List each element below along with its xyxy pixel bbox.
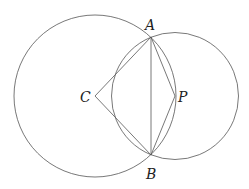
geometry-diagram: A B C P (0, 0, 249, 189)
label-b: B (145, 166, 156, 182)
segment-ap (151, 37, 175, 96)
label-a: A (143, 17, 155, 33)
segment-cb (95, 96, 151, 155)
segment-bp (151, 96, 175, 155)
segment-ca (95, 37, 151, 96)
label-p: P (177, 89, 188, 105)
label-c: C (80, 89, 91, 105)
